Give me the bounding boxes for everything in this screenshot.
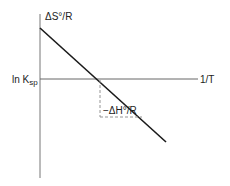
y-axis-label-sub: sp — [29, 78, 38, 87]
y-axis-label: ln Ksp — [12, 74, 38, 87]
x-axis-label: 1/T — [200, 74, 214, 85]
y-axis-label-main: ln K — [12, 74, 30, 85]
slope-label: −ΔH°/R — [103, 105, 137, 116]
diagram-canvas: ΔS°/R ln Ksp 1/T −ΔH°/R — [0, 0, 230, 186]
intercept-label: ΔS°/R — [45, 11, 72, 22]
data-line — [40, 28, 166, 142]
